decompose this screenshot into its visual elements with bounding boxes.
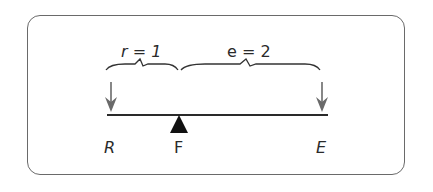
lever-drawing — [0, 0, 433, 192]
fulcrum-triangle-icon — [170, 115, 188, 133]
label-effort: E — [316, 140, 326, 156]
label-e: e = 2 — [227, 44, 271, 60]
label-fulcrum: F — [174, 140, 183, 156]
label-r: r = 1 — [121, 44, 161, 60]
label-resistance: R — [104, 140, 115, 156]
